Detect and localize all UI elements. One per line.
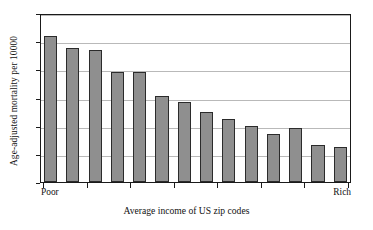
x-axis-tick-group	[40, 183, 351, 188]
chart-figure: Age-adjusted mortality per 10000 4050607…	[0, 0, 373, 230]
x-axis-label-poor: Poor	[41, 187, 59, 197]
bar	[155, 96, 168, 182]
bar	[44, 36, 57, 182]
x-axis-tick-mark	[87, 183, 88, 188]
x-axis-tick-mark	[174, 183, 175, 188]
bar	[89, 50, 102, 182]
bar-series	[41, 15, 350, 182]
bar	[222, 119, 235, 182]
x-axis-tick-mark	[217, 183, 218, 188]
bar	[178, 102, 191, 182]
bar	[245, 126, 258, 182]
plot-area	[40, 14, 351, 183]
bar	[311, 145, 324, 182]
x-axis-title: Average income of US zip codes	[0, 205, 373, 216]
bar	[334, 147, 347, 182]
bar	[200, 112, 213, 182]
x-axis-label-rich: Rich	[333, 187, 351, 197]
x-axis-tick-mark	[130, 183, 131, 188]
bar	[111, 72, 124, 182]
y-axis-title: Age-adjusted mortality per 10000	[9, 13, 19, 189]
x-axis-tick-mark	[304, 183, 305, 188]
bar	[267, 134, 280, 182]
bar	[133, 72, 146, 182]
bar	[66, 48, 79, 182]
x-axis-tick-mark	[261, 183, 262, 188]
bar	[289, 128, 302, 182]
